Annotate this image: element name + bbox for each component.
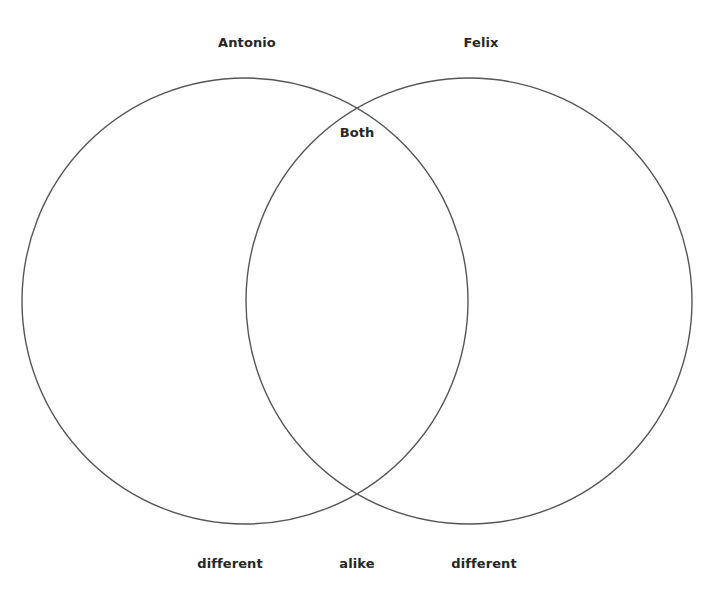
left-set-title: Antonio (218, 35, 276, 51)
venn-diagram (0, 0, 723, 595)
left-circle-antonio (22, 78, 468, 524)
overlap-title: Both (340, 125, 375, 141)
right-set-title: Felix (464, 35, 499, 51)
center-footer-label: alike (339, 556, 374, 572)
right-footer-label: different (451, 556, 517, 572)
left-footer-label: different (197, 556, 263, 572)
right-circle-felix (246, 78, 692, 524)
